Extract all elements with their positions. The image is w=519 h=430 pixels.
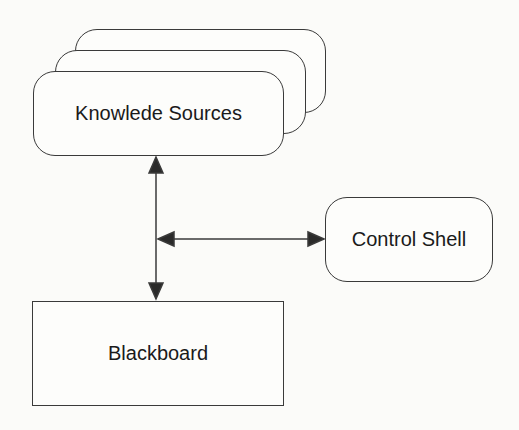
- arrowhead-down-icon: [149, 283, 163, 299]
- arrowhead-left-icon: [158, 232, 174, 246]
- arrowhead-right-icon: [308, 232, 324, 246]
- connector-arrows: [0, 0, 519, 430]
- arrowhead-up-icon: [149, 157, 163, 173]
